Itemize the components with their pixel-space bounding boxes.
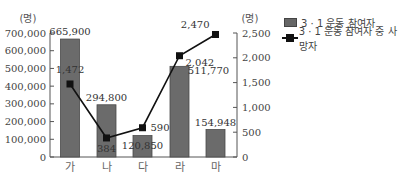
legend: 3 · 1 운동 참여자 3 · 1 운동 참여자 중 사망자 [282, 14, 405, 46]
line-value-label: 1,472 [56, 64, 85, 75]
right-tick-label: 500 [242, 127, 261, 138]
left-axis-unit: (명) [20, 13, 37, 24]
left-tick-label: 600,000 [5, 45, 46, 56]
right-axis-unit: (명) [242, 13, 259, 24]
square-marker-icon [103, 134, 110, 141]
bar-value-label: 294,800 [86, 92, 127, 103]
line-value-label: 2,470 [181, 19, 210, 30]
right-tick-label: 2,000 [242, 52, 271, 63]
line-value-label: 2,042 [186, 57, 215, 68]
right-tick-label: 2,500 [242, 28, 271, 39]
category-label: 가 [65, 161, 75, 174]
right-tick-label: 1,500 [242, 77, 271, 88]
bar-value-label: 120,850 [122, 140, 163, 151]
square-marker-icon [67, 80, 74, 87]
line-marker-icon [282, 33, 297, 43]
right-tick-label: 0 [242, 152, 248, 163]
x-axis-categories: 가나다라마 [65, 161, 221, 174]
left-tick-label: 400,000 [5, 81, 46, 92]
square-marker-icon [212, 31, 219, 38]
right-tick-label: 1,000 [242, 102, 271, 113]
line-value-label: 384 [97, 143, 116, 154]
category-label: 마 [211, 161, 221, 174]
bar-value-label: 665,900 [49, 26, 90, 37]
left-tick-label: 500,000 [5, 63, 46, 74]
left-tick-label: 200,000 [5, 116, 46, 127]
left-tick-label: 100,000 [5, 134, 46, 145]
right-y-axis: 05001,0001,5002,0002,500(명) [233, 13, 271, 163]
category-label: 다 [138, 161, 148, 174]
line-value-label: 590 [151, 122, 170, 133]
bar [170, 66, 189, 157]
square-marker-icon [139, 124, 146, 131]
square-marker-icon [176, 52, 183, 59]
category-label: 나 [102, 161, 112, 174]
legend-label-deaths: 3 · 1 운동 참여자 중 사망자 [299, 23, 405, 53]
left-tick-label: 300,000 [5, 98, 46, 109]
bar [206, 130, 225, 157]
left-tick-label: 0 [40, 152, 46, 163]
bar [61, 39, 80, 157]
left-y-axis: 0100,000200,000300,000400,000500,000600,… [5, 13, 237, 163]
bar-series-participants: 665,900294,800120,850511,770154,948 [49, 26, 236, 157]
line-series-deaths: 1,4723845902,0422,470 [56, 19, 219, 153]
legend-item-deaths: 3 · 1 운동 참여자 중 사망자 [282, 30, 405, 46]
left-tick-label: 700,000 [5, 28, 46, 39]
bar-value-label: 154,948 [195, 117, 236, 128]
bar-swatch-icon [284, 18, 297, 27]
category-label: 라 [175, 161, 185, 174]
